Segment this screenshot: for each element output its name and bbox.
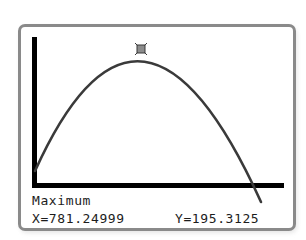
calculator-graph-screen: Maximum X=781.24999 Y=195.3125 xyxy=(18,24,296,231)
function-curve xyxy=(35,61,261,202)
maximum-marker-icon xyxy=(135,43,147,55)
y-readout: Y=195.3125 xyxy=(175,212,259,226)
x-axis xyxy=(32,183,284,188)
mode-label: Maximum xyxy=(32,194,91,208)
x-readout: X=781.24999 xyxy=(32,212,125,226)
